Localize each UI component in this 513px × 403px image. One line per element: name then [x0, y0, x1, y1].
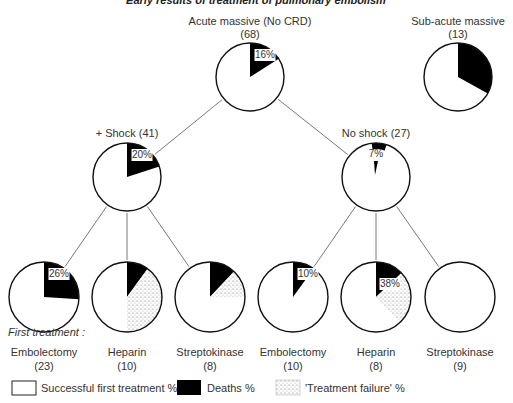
pct-label: 38% [380, 278, 400, 289]
tree-edge [65, 207, 106, 267]
node-label: Sub-acute massive [411, 15, 505, 27]
node-label: No shock (27) [342, 127, 410, 139]
tree-edge [147, 207, 188, 267]
node-label: Acute massive (No CRD) [189, 15, 312, 27]
legend-swatch-deaths [177, 380, 201, 395]
treatment-count: (10) [283, 360, 303, 372]
legend-swatch-failure [276, 380, 300, 395]
treatment-count: (23) [34, 360, 54, 372]
pct-label: 20% [132, 149, 152, 160]
treatment-count: (8) [203, 360, 216, 372]
chart-title: Early results of treatment of pulmonary … [126, 0, 386, 6]
tree-edge [155, 100, 222, 155]
tree-edge [314, 207, 355, 267]
pie-tree-chart: Early results of treatment of pulmonary … [0, 0, 513, 403]
pie-acute: 16%Acute massive (No CRD)(68) [189, 15, 312, 111]
pie-noshock-streptokinase: Streptokinase(9) [425, 262, 495, 372]
node-count: (68) [240, 28, 260, 40]
treatment-count: (10) [117, 360, 137, 372]
pie-shock: 20%+ Shock (41) [93, 127, 161, 211]
treatment-label: Embolectomy [260, 346, 327, 358]
treatment-label: Streptokinase [426, 346, 493, 358]
pie-noshock-heparin: 38%Heparin(8) [341, 262, 411, 372]
pie-nodes: 16%Acute massive (No CRD)(68)Sub-acute m… [9, 15, 505, 372]
legend-label-failure: 'Treatment failure' % [305, 382, 405, 394]
first-treatment-label: First treatment : [8, 326, 85, 338]
treatment-label: Embolectomy [11, 346, 78, 358]
treatment-label: Streptokinase [176, 346, 243, 358]
pie-subacute: Sub-acute massive(13) [411, 15, 505, 111]
pct-label: 10% [298, 268, 318, 279]
pct-label: 26% [49, 268, 69, 279]
pie-shock-heparin: Heparin(10) [92, 262, 162, 372]
pct-label: 16% [255, 49, 275, 60]
legend: Successful first treatment % Deaths % 'T… [12, 380, 405, 395]
pie-noshock: 7%No shock (27) [342, 127, 410, 211]
node-label: + Shock (41) [96, 127, 159, 139]
legend-label-success: Successful first treatment % [41, 382, 178, 394]
tree-edge [397, 206, 439, 266]
pct-label: 7% [369, 148, 384, 159]
treatment-count: (8) [369, 360, 382, 372]
legend-label-deaths: Deaths % [207, 382, 255, 394]
treatment-label: Heparin [357, 346, 396, 358]
treatment-count: (9) [453, 360, 466, 372]
pie-shock-embolectomy: 26%Embolectomy(23) [9, 262, 79, 372]
tree-edge [278, 99, 348, 154]
pie-shock-streptokinase: Streptokinase(8) [175, 262, 245, 372]
legend-swatch-success [12, 381, 36, 395]
treatment-label: Heparin [108, 346, 147, 358]
pie-noshock-embolectomy: 10%Embolectomy(10) [258, 262, 328, 372]
node-count: (13) [448, 28, 468, 40]
